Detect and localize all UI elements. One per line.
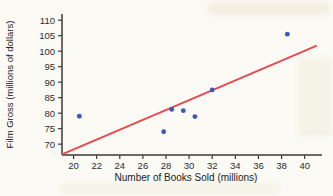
y-tick-label: 85 [44, 92, 55, 103]
x-tick-label: 30 [184, 160, 195, 171]
y-tick-label: 70 [44, 139, 55, 150]
y-tick-label: 90 [44, 77, 55, 88]
data-point [210, 88, 215, 93]
y-tick-label: 80 [44, 108, 55, 119]
trend-line [62, 46, 316, 154]
data-point [181, 108, 186, 113]
x-tick-label: 24 [114, 160, 125, 171]
x-tick-label: 28 [161, 160, 172, 171]
scatter-plot-figure: 2022242628303234363840707580859095100105… [0, 0, 333, 196]
data-point [285, 32, 290, 37]
x-tick-label: 40 [299, 160, 310, 171]
scatter-chart-canvas: 2022242628303234363840707580859095100105… [0, 0, 333, 196]
x-tick-label: 26 [138, 160, 149, 171]
data-point [192, 114, 197, 119]
x-axis-title: Number of Books Sold (millions) [62, 172, 310, 183]
x-tick-label: 22 [91, 160, 102, 171]
y-tick-label: 75 [44, 123, 55, 134]
x-tick-label: 34 [230, 160, 241, 171]
y-axis-title: Film Gross (millions of dollars) [4, 14, 15, 155]
x-tick-label: 38 [276, 160, 287, 171]
data-point [77, 114, 82, 119]
data-point [161, 129, 166, 134]
y-tick-label: 95 [44, 61, 55, 72]
y-tick-label: 110 [40, 15, 55, 26]
x-tick-label: 32 [207, 160, 218, 171]
y-tick-label: 100 [39, 46, 55, 57]
y-tick-label: 105 [39, 30, 55, 41]
x-tick-label: 36 [253, 160, 264, 171]
x-tick-label: 20 [68, 160, 79, 171]
data-point [169, 107, 174, 112]
